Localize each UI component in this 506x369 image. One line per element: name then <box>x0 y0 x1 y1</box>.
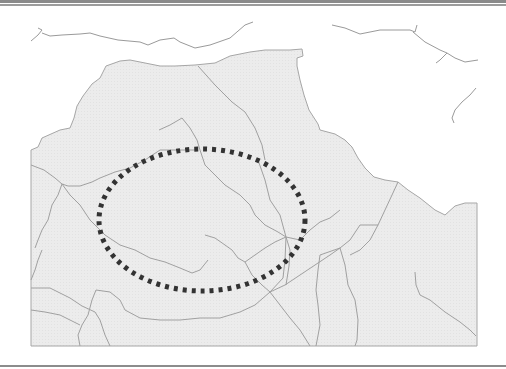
bottom-border-rule <box>0 365 506 367</box>
east-river-line <box>452 88 476 123</box>
northeast-river-line <box>332 25 478 63</box>
land-region <box>31 49 477 346</box>
map-figure <box>0 0 506 369</box>
north-river-line <box>31 22 253 48</box>
